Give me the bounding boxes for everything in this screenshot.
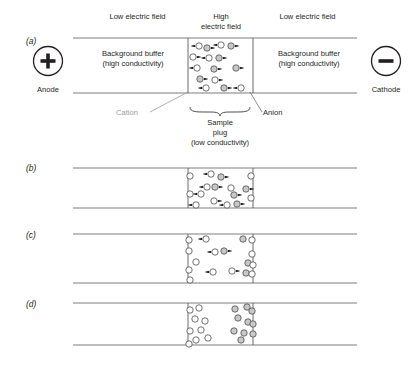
anion-particle (231, 328, 237, 334)
cation-particle (192, 316, 198, 322)
anion-particle (243, 270, 249, 276)
anion-particle (233, 65, 239, 71)
anion-particle (197, 76, 203, 82)
cation-particle (205, 335, 211, 341)
cation-particle (186, 237, 192, 243)
cation-particle (249, 237, 255, 243)
anion-particle (241, 330, 247, 336)
particles-panel-a (189, 42, 244, 91)
anion-particle (232, 306, 238, 312)
buffer-left-line2: (high conductivity) (80, 59, 186, 69)
cation-particle (193, 337, 199, 343)
panel-label-c: (c) (26, 230, 36, 240)
particles-panel-b (187, 171, 254, 208)
cathode-electrode (372, 47, 401, 76)
cation-particle (193, 202, 199, 208)
cation-particle (193, 259, 199, 265)
anion-particle (216, 55, 222, 61)
cation-particle (248, 173, 254, 179)
anion-particle (218, 174, 224, 180)
cation-particle (212, 249, 218, 255)
cation-particle (249, 251, 255, 257)
cation-particle (212, 77, 218, 83)
cation-particle (203, 85, 209, 91)
field-label-left: Low electric field (85, 12, 190, 22)
anion-particle (235, 315, 241, 321)
particles-panel-d (186, 304, 256, 347)
field-label-center-line1: High (186, 12, 256, 22)
cation-leader-line (150, 92, 188, 112)
anode-label: Anode (24, 85, 72, 94)
cation-particle (249, 271, 255, 277)
anion-particle (243, 186, 249, 192)
anion-particle (212, 184, 218, 190)
cation-particle (198, 327, 204, 333)
cation-particle (194, 65, 200, 71)
cation-particle (198, 191, 204, 197)
field-label-right: Low electric field (255, 12, 360, 22)
sample-plug-line3: (low conductivity) (165, 138, 275, 148)
buffer-right-line2: (high conductivity) (256, 59, 362, 69)
cation-particle (190, 54, 196, 60)
cation-label: Cation (116, 108, 138, 118)
anion-particle (238, 337, 244, 343)
sample-plug-line2: plug (180, 128, 260, 138)
cation-particle (202, 318, 208, 324)
cation-particle (187, 277, 193, 283)
field-label-center-line2: electric field (186, 22, 256, 32)
sample-plug-line1: Sample (180, 118, 260, 128)
cation-particle (187, 173, 193, 179)
cation-particle (208, 171, 214, 177)
cation-particle (187, 307, 193, 313)
figure-canvas: (a) (b) (c) (d) Anode Cathode Low electr… (0, 0, 420, 369)
cation-particle (228, 185, 234, 191)
anion-particle (221, 248, 227, 254)
anion-particle (250, 331, 256, 337)
cathode-label: Cathode (360, 85, 412, 94)
anion-particle (240, 236, 246, 242)
anion-particle (204, 45, 210, 51)
channel-d (73, 303, 357, 345)
cation-particle (206, 55, 212, 61)
anion-particle (231, 192, 237, 198)
cation-particle (204, 184, 210, 190)
cation-particle (224, 202, 230, 208)
cation-particle (186, 341, 192, 347)
anion-particle (234, 201, 240, 207)
anion-particle (211, 66, 217, 72)
cation-particle (186, 248, 192, 254)
anion-particle (249, 308, 255, 314)
cation-particle (186, 267, 192, 273)
cation-particle (229, 268, 235, 274)
cation-particle (238, 85, 244, 91)
panel-label-a: (a) (26, 36, 36, 46)
anode-electrode (34, 47, 63, 76)
channel-c (73, 234, 357, 283)
cation-particle (187, 328, 193, 334)
cation-particle (248, 195, 254, 201)
cation-particle (211, 198, 217, 204)
sample-plug-brace (190, 107, 250, 116)
anion-leader-line (250, 92, 262, 112)
anion-particle (228, 43, 234, 49)
cation-particle (187, 191, 193, 197)
cation-particle (218, 42, 224, 48)
cation-particle (210, 269, 216, 275)
cation-particle (250, 262, 256, 268)
anion-particle (250, 321, 256, 327)
panel-label-b: (b) (26, 163, 36, 173)
cation-particle (196, 305, 202, 311)
buffer-right-line1: Background buffer (256, 49, 362, 59)
buffer-left-line1: Background buffer (80, 49, 186, 59)
anion-label: Anion (263, 108, 282, 118)
particles-panel-c (186, 236, 256, 283)
panel-label-d: (d) (26, 299, 36, 309)
cation-particle (203, 236, 209, 242)
cation-particle (196, 43, 202, 49)
anion-particle (221, 85, 227, 91)
